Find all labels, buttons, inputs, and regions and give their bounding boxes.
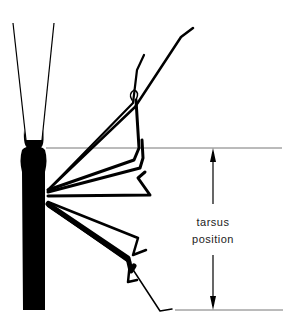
legs (48, 28, 193, 311)
label-tarsus: tarsus (173, 215, 253, 229)
range-arrow (210, 148, 216, 310)
leg-8 (48, 206, 137, 282)
diagram-canvas (0, 0, 298, 327)
diagram-figure: tarsus position (0, 0, 298, 327)
label-position: position (173, 232, 253, 246)
stem (13, 23, 54, 310)
leg-6 (48, 202, 146, 255)
leg-9 (48, 206, 172, 311)
